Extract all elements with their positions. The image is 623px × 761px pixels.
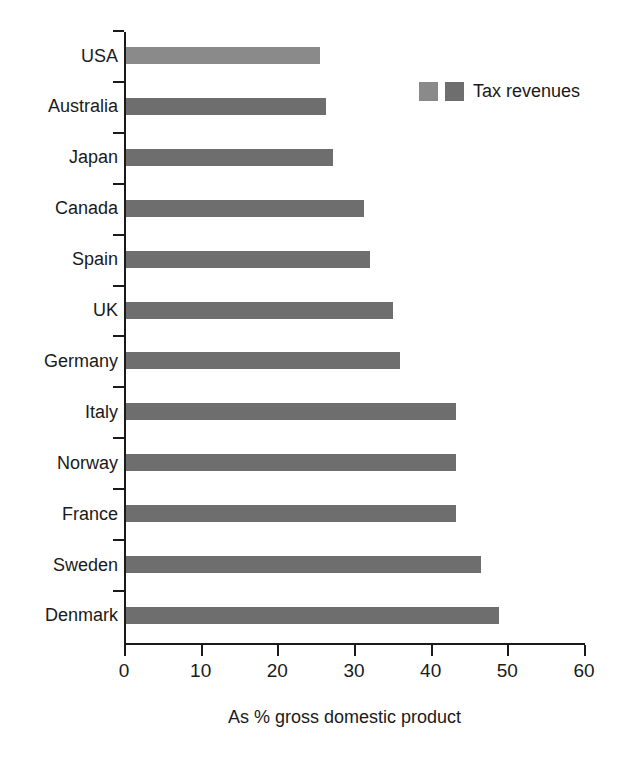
y-axis-label-norway: Norway: [0, 453, 118, 473]
y-axis-tick: [113, 30, 124, 32]
bar-uk: [126, 302, 393, 319]
y-axis-tick: [113, 539, 124, 541]
x-axis-tick-label-50: 50: [477, 659, 537, 683]
y-axis-tick: [113, 335, 124, 337]
bar-norway: [126, 454, 456, 471]
bar-france: [126, 505, 456, 522]
x-axis-tick: [201, 645, 203, 656]
y-axis-label-australia: Australia: [0, 96, 118, 116]
bar-spain: [126, 251, 370, 268]
y-axis-tick: [113, 234, 124, 236]
bar-japan: [126, 149, 333, 166]
y-axis-tick: [113, 81, 124, 83]
y-axis-label-japan: Japan: [0, 147, 118, 167]
x-axis-tick: [277, 645, 279, 656]
bar-germany: [126, 352, 400, 369]
y-axis-line: [124, 32, 126, 644]
y-axis-label-usa: USA: [0, 46, 118, 66]
y-axis-tick: [113, 183, 124, 185]
x-axis-tick: [124, 645, 126, 656]
legend-swatch-light: [419, 82, 438, 101]
y-axis-label-sweden: Sweden: [0, 555, 118, 575]
x-axis-tick-label-0: 0: [94, 659, 154, 683]
y-axis-label-canada: Canada: [0, 198, 118, 218]
y-axis-label-germany: Germany: [0, 351, 118, 371]
bar-denmark: [126, 607, 499, 624]
y-axis-label-spain: Spain: [0, 249, 118, 269]
x-axis-tick: [507, 645, 509, 656]
x-axis-tick-label-20: 20: [247, 659, 307, 683]
bar-australia: [126, 98, 326, 115]
legend: Tax revenues: [419, 81, 580, 101]
y-axis-tick: [113, 285, 124, 287]
bar-usa: [126, 47, 320, 64]
y-axis-tick: [113, 488, 124, 490]
x-axis-tick-label-30: 30: [324, 659, 384, 683]
x-axis-tick: [431, 645, 433, 656]
x-axis-tick-label-10: 10: [171, 659, 231, 683]
x-axis-tick-label-40: 40: [401, 659, 461, 683]
y-axis-tick: [113, 386, 124, 388]
x-axis-title: As % gross domestic product: [0, 706, 623, 728]
y-axis-tick: [113, 437, 124, 439]
legend-label-tax-revenues: Tax revenues: [473, 81, 580, 101]
y-axis-label-denmark: Denmark: [0, 605, 118, 625]
x-axis-tick: [584, 645, 586, 656]
legend-swatch-dark: [445, 82, 464, 101]
y-axis-tick: [113, 132, 124, 134]
bar-sweden: [126, 556, 481, 573]
y-axis-tick: [113, 590, 124, 592]
bar-canada: [126, 200, 364, 217]
y-axis-label-france: France: [0, 504, 118, 524]
bar-italy: [126, 403, 456, 420]
y-axis-label-italy: Italy: [0, 402, 118, 422]
tax-revenues-bar-chart: USAAustraliaJapanCanadaSpainUKGermanyIta…: [0, 0, 623, 761]
x-axis-tick-label-60: 60: [554, 659, 614, 683]
x-axis-tick: [354, 645, 356, 656]
x-axis-title-text: As % gross domestic product: [228, 707, 461, 727]
y-axis-label-uk: UK: [0, 300, 118, 320]
